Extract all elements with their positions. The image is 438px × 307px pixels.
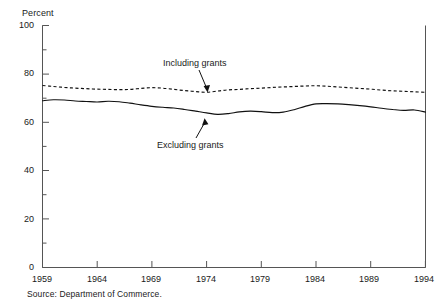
annotation-leader-including: [199, 70, 210, 93]
chart-canvas: [0, 0, 438, 307]
x-axis-ticks: [43, 261, 426, 268]
chart-figure: Percent 100 80 60 40 20 0 1959 1964 1969…: [0, 0, 438, 307]
annotation-leader-excluding: [196, 118, 208, 138]
y-axis-ticks: [43, 26, 50, 268]
axis-frame: [43, 26, 426, 268]
series-line-including-grants: [43, 86, 426, 93]
series-line-excluding-grants: [43, 100, 426, 115]
